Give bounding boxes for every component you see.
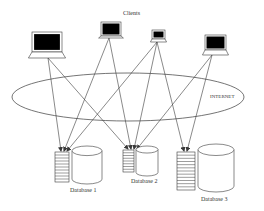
client-2-laptop-icon: [99, 22, 124, 38]
connection-arrow: [187, 55, 212, 151]
clients-title: Clients: [123, 10, 140, 16]
connection-arrow: [48, 58, 128, 149]
connection-arrow: [67, 42, 157, 151]
cylinder-icon: [136, 150, 158, 176]
connection-arrow: [48, 58, 61, 151]
database-1-label: Database 1: [70, 187, 97, 193]
connection-arrow: [109, 38, 131, 149]
database-2-label: Database 2: [131, 178, 158, 184]
database-3-icon: [177, 144, 234, 192]
cylinder-icon: [198, 150, 234, 192]
connection-arrow: [157, 42, 184, 151]
connection-arrow: [64, 38, 109, 151]
connection-arrow: [134, 42, 157, 149]
database-2-icon: [123, 146, 158, 176]
databases-group: [55, 144, 234, 192]
client-3-laptop-icon: [150, 30, 166, 42]
database-1-icon: [55, 146, 102, 184]
connection-arrow: [137, 55, 212, 149]
client-4-laptop-icon: [202, 35, 228, 55]
database-3-label: Database 3: [201, 196, 228, 202]
connection-lines: [48, 38, 212, 151]
internet-label: INTERNET: [210, 94, 234, 99]
network-diagram: Clients INTERNET Database 1 Database 2 D…: [0, 0, 264, 211]
client-1-laptop-icon: [28, 32, 65, 58]
clients-group: [28, 22, 228, 58]
